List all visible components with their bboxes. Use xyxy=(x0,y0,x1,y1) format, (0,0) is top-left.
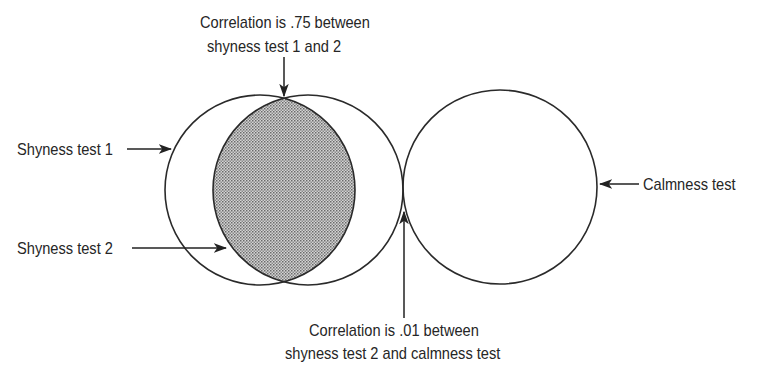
top-annotation-line2: shyness test 1 and 2 xyxy=(207,36,341,57)
label-shyness-test-2: Shyness test 2 xyxy=(17,238,113,259)
venn-diagram: Correlation is .75 between shyness test … xyxy=(0,0,761,377)
bottom-annotation-line2: shyness test 2 and calmness test xyxy=(285,343,500,364)
label-shyness-test-1: Shyness test 1 xyxy=(17,139,113,160)
overlap-region xyxy=(213,95,403,285)
circle-calmness-test xyxy=(403,90,597,284)
label-calmness-test: Calmness test xyxy=(643,174,736,195)
top-annotation-line1: Correlation is .75 between xyxy=(200,12,370,33)
bottom-annotation-line1: Correlation is .01 between xyxy=(309,320,479,341)
